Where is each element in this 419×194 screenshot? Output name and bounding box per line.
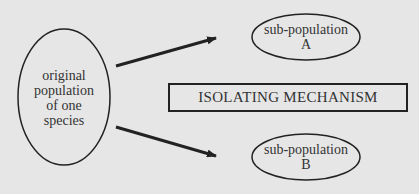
label-line: A	[256, 37, 356, 52]
label-line: sub-population	[256, 142, 356, 157]
source-population-label: original population of one species	[24, 68, 104, 128]
label-line: of one	[24, 98, 104, 113]
arrow-to-a	[116, 38, 216, 66]
label-line: B	[256, 157, 356, 172]
isolating-mechanism-box: ISOLATING MECHANISM	[168, 83, 408, 112]
label-line: sub-population	[256, 22, 356, 37]
label-line: species	[24, 113, 104, 128]
sub-population-a-label: sub-population A	[256, 22, 356, 52]
arrow-to-b	[116, 127, 216, 156]
label-line: original	[24, 68, 104, 83]
sub-population-b-label: sub-population B	[256, 142, 356, 172]
isolating-mechanism-label: ISOLATING MECHANISM	[198, 89, 377, 106]
label-line: population	[24, 83, 104, 98]
